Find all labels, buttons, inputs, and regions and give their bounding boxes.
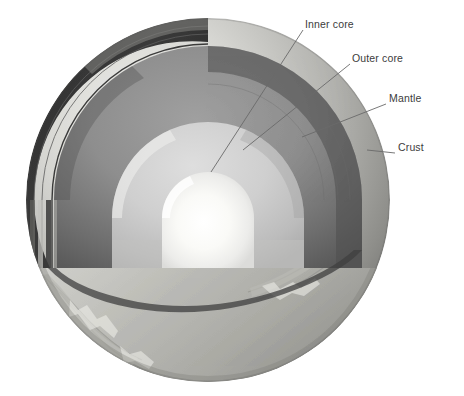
sphere-body bbox=[26, 18, 390, 382]
label-inner-core: Inner core bbox=[305, 19, 354, 30]
label-outer-core: Outer core bbox=[352, 53, 403, 64]
label-mantle: Mantle bbox=[389, 93, 421, 104]
label-crust: Crust bbox=[398, 142, 424, 153]
earth-cutaway-figure: Inner core Outer core Mantle Crust bbox=[0, 0, 464, 396]
